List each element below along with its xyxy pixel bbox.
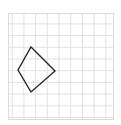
- graph-paper-grid: [8, 13, 113, 119]
- figure-svg: [0, 0, 121, 125]
- grid-lines: [8, 13, 113, 119]
- figure-canvas: [0, 0, 121, 125]
